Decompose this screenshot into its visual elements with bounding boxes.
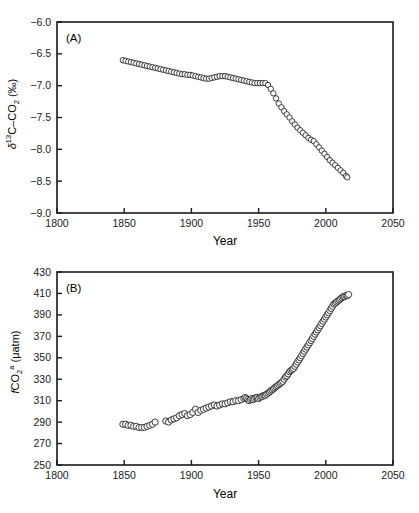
panel-a-y-axis-label: δ13C–CO2 (‰) [6, 59, 18, 169]
y-tick-label: 330 [33, 373, 51, 385]
data-point [346, 291, 352, 297]
data-series-A [120, 58, 350, 181]
x-tick-label: 1850 [113, 469, 137, 481]
panel-a: 180018501900195020002050−9.0−8.5−8.0−7.5… [0, 0, 419, 256]
panel-b-y-axis-label: fCO2a (μatm) [9, 307, 21, 417]
panel-a-tag: (A) [66, 32, 81, 44]
y-tick-label: 310 [33, 394, 51, 406]
y-tick-label: −7.5 [30, 111, 51, 123]
x-tick-label: 1850 [113, 217, 137, 229]
y-tick-label: 430 [33, 266, 51, 278]
x-tick-label: 2050 [381, 469, 405, 481]
y-tick-label: −6.0 [30, 16, 51, 28]
x-tick-label: 1950 [247, 217, 271, 229]
y-tick-label: 370 [33, 330, 51, 342]
x-tick-label: 1900 [180, 469, 204, 481]
panel-b-x-axis-label: Year [57, 487, 393, 501]
panel-b: 1800185019001950200020502502702903103303… [0, 256, 419, 513]
x-tick-label: 1800 [45, 469, 69, 481]
data-point [152, 419, 158, 425]
y-tick-label: 250 [33, 459, 51, 471]
x-tick-label: 2000 [314, 217, 338, 229]
x-tick-label: 2050 [381, 217, 405, 229]
plot-frame [57, 22, 393, 213]
y-tick-label: 350 [33, 351, 51, 363]
data-point [273, 96, 278, 101]
y-tick-label: −6.5 [30, 47, 51, 59]
y-tick-label: −8.5 [30, 175, 51, 187]
y-tick-label: 410 [33, 287, 51, 299]
panel-a-x-axis-label: Year [57, 234, 393, 248]
x-tick-label: 1800 [45, 217, 69, 229]
y-tick-label: 270 [33, 437, 51, 449]
x-tick-label: 1900 [180, 217, 204, 229]
y-tick-label: 390 [33, 308, 51, 320]
y-tick-label: −9.0 [30, 207, 51, 219]
data-point [271, 91, 276, 96]
y-tick-label: 290 [33, 416, 51, 428]
panel-a-plot: 180018501900195020002050−9.0−8.5−8.0−7.5… [0, 0, 419, 256]
panel-b-tag: (B) [66, 282, 81, 294]
y-tick-label: −8.0 [30, 143, 51, 155]
y-tick-label: −7.0 [30, 79, 51, 91]
panel-b-plot: 1800185019001950200020502502702903103303… [0, 256, 419, 513]
x-tick-label: 2000 [314, 469, 338, 481]
data-point [345, 175, 350, 180]
figure-root: 180018501900195020002050−9.0−8.5−8.0−7.5… [0, 0, 419, 513]
x-tick-label: 1950 [247, 469, 271, 481]
data-series-B [120, 291, 352, 430]
